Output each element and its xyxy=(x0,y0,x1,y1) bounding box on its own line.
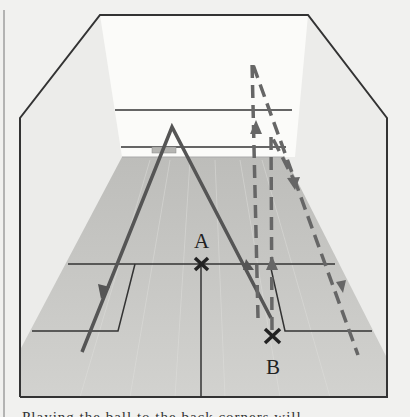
point-b-label: B xyxy=(266,355,280,379)
front-wall xyxy=(100,15,308,157)
squash-court-diagram: A B xyxy=(0,0,410,417)
point-a-label: A xyxy=(194,229,210,253)
caption-text: Playing the ball to the back corners wil… xyxy=(22,404,402,417)
